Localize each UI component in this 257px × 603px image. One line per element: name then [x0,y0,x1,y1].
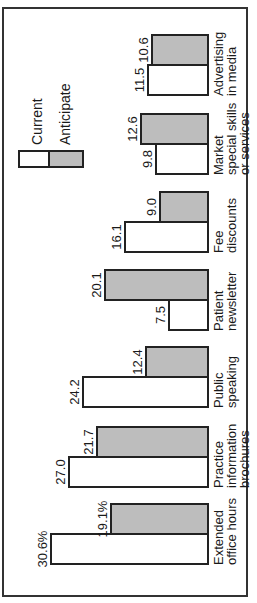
value-anticipate-newsletter: 20.1 [90,255,103,315]
value-current-speaking: 24.2 [68,362,81,422]
category-advertising: Advertising in media [212,32,238,96]
category-extended-office-hours: Extended office hours [212,498,238,565]
bar-anticipate-fee-discounts [159,191,209,223]
value-anticipate-speaking: 12.4 [131,332,144,392]
bar-current-extended-office-hours [50,533,209,565]
category-newsletter: Patient newsletter [212,272,238,331]
bar-current-advertising [147,64,209,96]
rotated-chart: Current Anticipate 30.6% 19.1% Extended … [0,0,257,603]
legend-label-anticipate: Anticipate [58,84,72,145]
value-current-brochures: 27.0 [54,442,67,502]
bar-anticipate-public-speaking [145,346,209,378]
value-current-fees: 16.1 [110,207,123,267]
value-anticipate-brochures: 21.7 [82,412,95,472]
bar-anticipate-brochures [96,426,209,458]
legend-swatch-anticipate [48,150,84,168]
category-public-speaking: Public speaking [212,356,238,408]
bar-current-newsletter [168,299,209,331]
value-current-extended: 30.6% [36,519,49,579]
bar-current-market-skills [155,143,209,175]
legend-label-current: Current [30,98,44,145]
category-market-skills: Market special skills or services [212,103,251,175]
category-brochures: Practice information brochures [212,424,251,488]
value-anticipate-advertising: 10.6 [137,20,150,80]
category-fee-discounts: Fee discounts [212,198,238,253]
bar-anticipate-advertising [151,34,209,66]
bar-anticipate-extended-office-hours [110,503,209,535]
value-current-newsletter: 7.5 [154,285,167,345]
bar-current-fee-discounts [124,221,209,253]
value-current-market: 9.8 [141,129,154,189]
value-anticipate-extended: 19.1% [96,489,109,549]
bar-current-public-speaking [82,376,209,408]
